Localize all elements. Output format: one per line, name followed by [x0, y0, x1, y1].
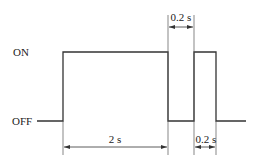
- signal-waveform: [37, 52, 246, 121]
- arrow-right-icon: [187, 25, 193, 29]
- dimension-0-2s-on-pulse: 0.2 s: [195, 133, 216, 149]
- dimension-0-2s-off-gap: 0.2 s: [169, 11, 193, 29]
- on-level-label: ON: [13, 46, 29, 58]
- arrow-left-icon: [169, 25, 175, 29]
- arrow-left-icon: [64, 145, 70, 149]
- dimension-label-0-2s-bottom: 0.2 s: [196, 133, 217, 145]
- dimension-2s: 2 s: [64, 133, 167, 149]
- arrow-right-icon: [161, 145, 167, 149]
- dimension-label-2s: 2 s: [109, 133, 122, 145]
- dimension-label-0-2s-top: 0.2 s: [171, 11, 192, 23]
- arrow-left-icon: [195, 145, 201, 149]
- timing-diagram: ON OFF 2 s 0.2 s 0.2 s: [0, 0, 257, 165]
- off-level-label: OFF: [12, 115, 32, 127]
- arrow-right-icon: [209, 145, 215, 149]
